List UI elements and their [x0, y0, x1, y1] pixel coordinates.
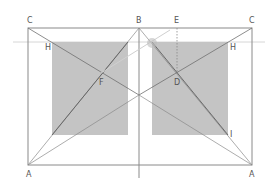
label-d: D: [174, 78, 180, 87]
label-a-right: A: [249, 170, 255, 179]
pale-circle-marker: [147, 38, 157, 48]
label-a-left: A: [26, 170, 32, 179]
label-f: F: [99, 78, 104, 87]
label-c-right: C: [249, 16, 255, 25]
label-e: E: [174, 16, 179, 25]
label-c-left: C: [27, 16, 33, 25]
label-h-left: H: [45, 43, 51, 52]
diagram-canvas: C B E C H H F D I A A: [0, 0, 277, 185]
label-b: B: [136, 16, 142, 25]
label-h-right: H: [230, 43, 236, 52]
label-i: I: [230, 130, 232, 139]
